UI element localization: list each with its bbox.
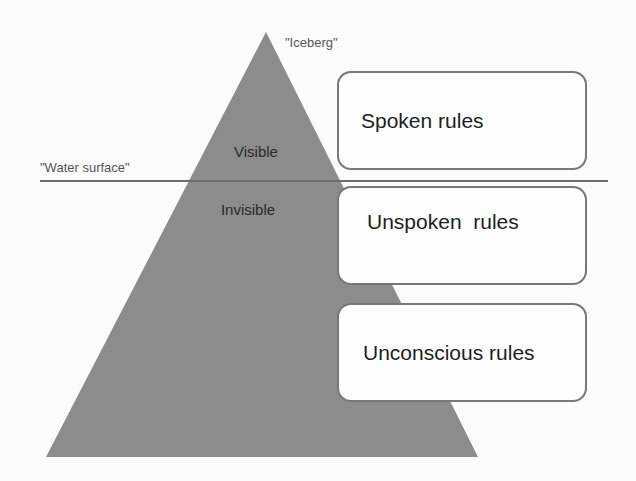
invisible-label: Invisible bbox=[221, 201, 275, 218]
spoken-rules-label: Spoken rules bbox=[361, 109, 484, 133]
iceberg-label: "Iceberg" bbox=[285, 35, 338, 50]
visible-label: Visible bbox=[234, 143, 278, 160]
unconscious-rules-box: Unconscious rules bbox=[337, 303, 587, 402]
unspoken-rules-box: Unspoken rules bbox=[337, 186, 587, 285]
unspoken-rules-label: Unspoken rules bbox=[367, 210, 519, 234]
water-surface-line bbox=[40, 180, 608, 182]
spoken-rules-box: Spoken rules bbox=[337, 71, 587, 170]
water-surface-label: "Water surface" bbox=[40, 160, 130, 175]
unconscious-rules-label: Unconscious rules bbox=[363, 341, 535, 365]
